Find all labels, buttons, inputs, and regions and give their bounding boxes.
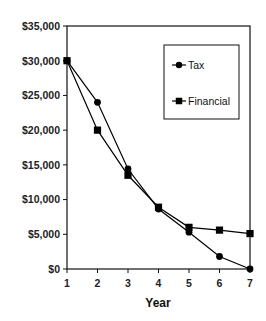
legend: Tax Financial	[164, 45, 239, 119]
square-marker-icon	[216, 227, 223, 234]
x-tick-label: 4	[156, 277, 162, 289]
circle-marker-icon	[94, 99, 101, 106]
square-marker-icon	[185, 224, 192, 231]
legend-label-financial: Financial	[188, 95, 230, 107]
y-tick-label: $35,000	[22, 20, 60, 32]
square-marker-icon	[155, 204, 162, 211]
legend-box	[164, 45, 239, 119]
x-axis-title: Year	[145, 296, 171, 310]
x-tick-label: 2	[95, 277, 101, 289]
y-tick-label: $30,000	[22, 55, 60, 67]
square-marker-icon	[246, 230, 253, 237]
y-tick-label: $25,000	[22, 89, 60, 101]
circle-marker-icon	[247, 266, 254, 273]
x-tick-label: 3	[125, 277, 131, 289]
square-marker-icon	[176, 98, 183, 105]
y-tick-label: $20,000	[22, 124, 60, 136]
x-tick-label: 6	[217, 277, 223, 289]
x-tick-label: 7	[247, 277, 253, 289]
square-marker-icon	[124, 172, 131, 179]
y-tick-label: $15,000	[22, 159, 60, 171]
x-tick-label: 1	[64, 277, 70, 289]
circle-marker-icon	[216, 253, 223, 260]
y-tick-label: $5,000	[28, 228, 60, 240]
square-marker-icon	[63, 57, 70, 64]
legend-label-tax: Tax	[188, 59, 205, 71]
x-tick-label: 5	[186, 277, 192, 289]
line-chart: $0$5,000$10,000$15,000$20,000$25,000$30,…	[0, 0, 266, 321]
circle-marker-icon	[176, 62, 182, 68]
square-marker-icon	[94, 127, 101, 134]
y-tick-label: $0	[48, 263, 60, 275]
y-tick-label: $10,000	[22, 193, 60, 205]
